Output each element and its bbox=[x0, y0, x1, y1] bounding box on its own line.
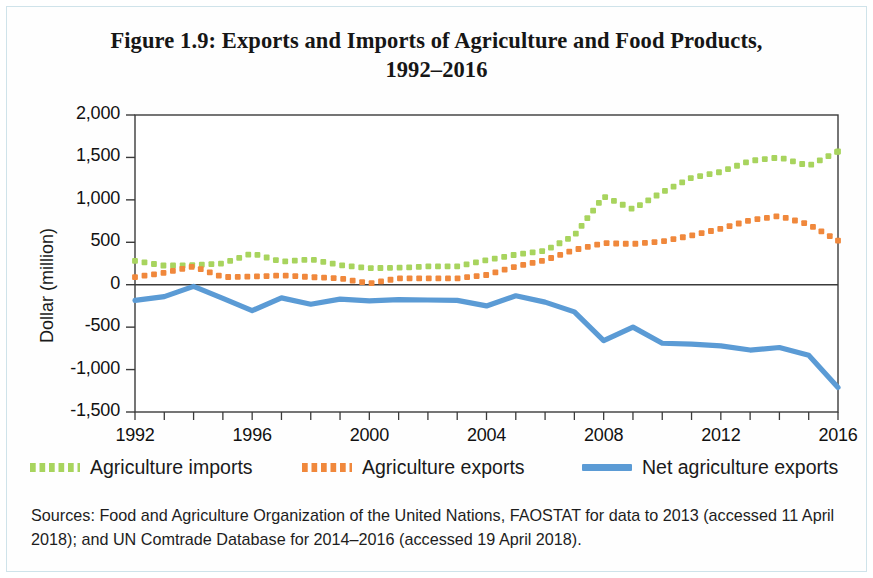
series-dot bbox=[565, 236, 571, 242]
series-dot bbox=[142, 273, 148, 279]
legend-item-1[interactable]: Agriculture imports bbox=[30, 452, 253, 482]
chart-legend: Agriculture importsAgriculture exportsNe… bbox=[30, 452, 850, 482]
series-dot bbox=[566, 249, 572, 255]
series-dot bbox=[734, 163, 740, 169]
series-dot bbox=[502, 267, 508, 273]
series-dot bbox=[445, 275, 451, 281]
series-dot bbox=[416, 275, 422, 281]
series-dot bbox=[435, 275, 441, 281]
series-dot bbox=[790, 158, 796, 164]
series-dot bbox=[783, 215, 789, 221]
series-dot bbox=[321, 275, 327, 281]
series-dot bbox=[736, 221, 742, 227]
series-dot bbox=[764, 215, 770, 221]
series-dot bbox=[483, 272, 489, 278]
series-dot bbox=[671, 184, 677, 190]
series-dot bbox=[320, 259, 326, 265]
series-dot bbox=[557, 252, 563, 258]
series-dot bbox=[835, 238, 841, 244]
series-dot bbox=[292, 258, 298, 264]
series-dot bbox=[283, 273, 289, 279]
series-dot bbox=[611, 198, 617, 204]
series-dot bbox=[511, 252, 517, 258]
series-dot bbox=[623, 241, 629, 247]
series-dot bbox=[282, 259, 288, 265]
series-dot bbox=[679, 180, 685, 186]
series-dot bbox=[801, 220, 807, 226]
series-dot bbox=[827, 233, 833, 239]
series-dot bbox=[755, 216, 761, 222]
series-dot bbox=[264, 273, 270, 279]
series-dot bbox=[273, 273, 279, 279]
series-dot bbox=[548, 245, 554, 251]
series-dot bbox=[620, 202, 626, 208]
series-dot bbox=[218, 261, 224, 267]
series-dot bbox=[369, 280, 375, 286]
series-dot bbox=[425, 264, 431, 270]
series-dot bbox=[781, 156, 787, 162]
series-dot bbox=[301, 257, 307, 263]
series-dot bbox=[654, 193, 660, 199]
series-dot bbox=[584, 215, 590, 221]
series-dot bbox=[817, 158, 823, 164]
series-dot bbox=[530, 250, 536, 256]
series-dot bbox=[539, 248, 545, 254]
series-dot bbox=[161, 270, 167, 276]
series-dot bbox=[752, 157, 758, 163]
legend-item-2[interactable]: Agriculture exports bbox=[302, 452, 525, 482]
series-dot bbox=[743, 159, 749, 165]
series-dot bbox=[645, 197, 651, 203]
series-dot bbox=[454, 264, 460, 270]
series-dot bbox=[774, 214, 780, 220]
figure-title: Figure 1.9: Exports and Imports of Agric… bbox=[40, 26, 833, 84]
series-dot bbox=[330, 261, 336, 267]
series-dot bbox=[662, 188, 668, 194]
legend-item-3[interactable]: Net agriculture exports bbox=[582, 452, 838, 482]
series-dot bbox=[473, 260, 479, 266]
series-dot bbox=[142, 260, 148, 266]
series-dot bbox=[680, 234, 686, 240]
series-dot bbox=[613, 241, 619, 247]
x-axis-tick-label: 2000 bbox=[334, 425, 404, 446]
plot-frame bbox=[135, 115, 838, 412]
series-dot bbox=[557, 240, 563, 246]
figure-title-line-2: 1992–2016 bbox=[40, 55, 833, 84]
series-dot bbox=[378, 279, 384, 285]
series-dot bbox=[762, 156, 768, 162]
series-dot bbox=[216, 273, 222, 279]
series-dot bbox=[225, 274, 231, 280]
series-dot bbox=[810, 224, 816, 230]
series-dot bbox=[576, 246, 582, 252]
series-dot bbox=[368, 265, 374, 271]
series-dot bbox=[637, 202, 643, 208]
series-dot bbox=[388, 277, 394, 283]
series-dot bbox=[629, 206, 635, 212]
series-dot bbox=[808, 162, 814, 168]
series-dot bbox=[189, 264, 195, 270]
series-dot bbox=[397, 275, 403, 281]
series-dot bbox=[745, 218, 751, 224]
series-dot bbox=[292, 273, 298, 279]
series-dot bbox=[445, 264, 451, 270]
series-dot bbox=[835, 149, 841, 155]
series-dot bbox=[671, 236, 677, 242]
legend-swatch-dotted-icon bbox=[30, 463, 80, 472]
series-dot bbox=[339, 263, 345, 269]
series-dot bbox=[406, 264, 412, 270]
series-dot bbox=[689, 232, 695, 238]
series-dot bbox=[151, 261, 157, 267]
series-dot bbox=[397, 265, 403, 271]
series-dot bbox=[697, 173, 703, 179]
series-dot bbox=[632, 241, 638, 247]
series-dot bbox=[602, 194, 608, 200]
series-dot bbox=[331, 275, 337, 281]
sources-note: Sources: Food and Agriculture Organizati… bbox=[31, 503, 843, 551]
series-dot bbox=[170, 268, 176, 274]
series-dot bbox=[416, 264, 422, 270]
x-axis-tick-label: 2012 bbox=[686, 425, 756, 446]
x-axis-tick-label: 1992 bbox=[100, 425, 170, 446]
series-dot bbox=[652, 239, 658, 245]
series-dot bbox=[236, 255, 242, 261]
series-dot bbox=[492, 256, 498, 262]
series-dot bbox=[493, 269, 499, 275]
